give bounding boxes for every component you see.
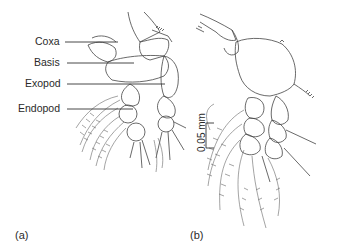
label-endopod: Endopod [18,102,60,114]
leader-lines [65,42,165,109]
label-basis: Basis [34,56,60,68]
scale-bar [206,123,214,148]
appendage-b [196,14,316,228]
label-coxa: Coxa [35,35,60,47]
panel-label-b: (b) [190,229,203,241]
label-exopod: Exopod [25,77,61,89]
panel-label-a: (a) [15,229,28,241]
scale-bar-label: 0.05 mm [196,113,207,152]
appendage-a [76,12,186,172]
